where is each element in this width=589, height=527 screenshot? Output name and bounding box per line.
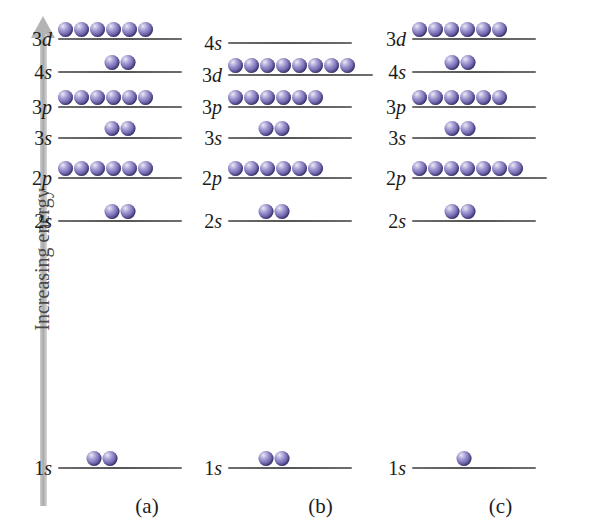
electron-sphere	[105, 55, 120, 70]
electron-group-2s	[259, 204, 290, 219]
electron-group-1s	[457, 451, 472, 466]
electron-group-2p	[412, 161, 523, 176]
orbital-line-1s	[412, 467, 536, 469]
column-caption-a: (a)	[58, 494, 236, 519]
electron-group-1s	[259, 451, 290, 466]
electron-sphere	[138, 161, 153, 176]
electron-sphere	[74, 161, 89, 176]
electron-sphere	[228, 58, 243, 73]
electron-sphere	[106, 22, 121, 37]
electron-sphere	[244, 161, 259, 176]
electron-sphere	[276, 90, 291, 105]
electron-group-1s	[87, 451, 118, 466]
electron-sphere	[492, 90, 507, 105]
electron-sphere	[492, 22, 507, 37]
electron-group-3p	[412, 90, 507, 105]
orbital-label-3s: 3s	[34, 127, 52, 150]
orbital-line-2s	[58, 220, 182, 222]
orbital-label-2p: 2p	[32, 167, 52, 190]
electron-sphere	[276, 58, 291, 73]
electron-sphere	[340, 58, 355, 73]
electron-sphere	[138, 22, 153, 37]
electron-sphere	[105, 204, 120, 219]
electron-sphere	[105, 121, 120, 136]
electron-sphere	[428, 22, 443, 37]
electron-sphere	[444, 161, 459, 176]
orbital-label-1s: 1s	[34, 457, 52, 480]
electron-sphere	[444, 90, 459, 105]
orbital-line-3d	[228, 74, 373, 76]
electron-group-3s	[259, 121, 290, 136]
orbital-line-3s	[58, 137, 182, 139]
electron-sphere	[324, 58, 339, 73]
electron-sphere	[308, 90, 323, 105]
column-caption-b: (b)	[228, 494, 413, 519]
electron-group-2p	[228, 161, 323, 176]
electron-sphere	[121, 204, 136, 219]
electron-sphere	[444, 22, 459, 37]
electron-sphere	[74, 90, 89, 105]
orbital-label-2p: 2p	[202, 167, 222, 190]
electron-sphere	[476, 161, 491, 176]
electron-sphere	[461, 55, 476, 70]
orbital-label-3d: 3d	[202, 64, 222, 87]
electron-group-3s	[105, 121, 136, 136]
electron-sphere	[244, 58, 259, 73]
orbital-line-4s	[58, 71, 182, 73]
electron-sphere	[476, 90, 491, 105]
electron-sphere	[276, 161, 291, 176]
electron-sphere	[106, 90, 121, 105]
orbital-line-4s	[412, 71, 536, 73]
orbital-label-1s: 1s	[388, 457, 406, 480]
electron-sphere	[308, 161, 323, 176]
orbital-label-3p: 3p	[386, 96, 406, 119]
electron-sphere	[445, 121, 460, 136]
electron-sphere	[228, 161, 243, 176]
orbital-line-2p	[228, 177, 352, 179]
orbital-line-3d	[58, 38, 182, 40]
orbital-label-4s: 4s	[388, 61, 406, 84]
orbital-line-3p	[58, 106, 182, 108]
orbital-line-2p	[412, 177, 547, 179]
orbital-line-3p	[412, 106, 536, 108]
electron-sphere	[259, 451, 274, 466]
orbital-line-2p	[58, 177, 182, 179]
electron-group-2s	[105, 204, 136, 219]
electron-sphere	[106, 161, 121, 176]
orbital-line-1s	[58, 467, 182, 469]
orbital-column-c: 3d4s3p3s2p2s1s (c)	[412, 0, 589, 527]
orbital-line-3s	[228, 137, 352, 139]
electron-sphere	[308, 58, 323, 73]
electron-group-4s	[445, 55, 476, 70]
electron-sphere	[445, 55, 460, 70]
orbital-column-b: 4s3d3p3s2p2s1s (b)	[228, 0, 413, 527]
electron-sphere	[58, 22, 73, 37]
orbital-label-3p: 3p	[32, 96, 52, 119]
electron-sphere	[244, 90, 259, 105]
electron-sphere	[121, 121, 136, 136]
orbital-line-2s	[412, 220, 536, 222]
electron-sphere	[292, 58, 307, 73]
electron-sphere	[508, 161, 523, 176]
electron-sphere	[460, 22, 475, 37]
electron-sphere	[260, 90, 275, 105]
orbital-label-1s: 1s	[204, 457, 222, 480]
electron-sphere	[87, 451, 102, 466]
electron-group-2s	[445, 204, 476, 219]
electron-sphere	[460, 90, 475, 105]
electron-group-3p	[228, 90, 323, 105]
electron-group-3p	[58, 90, 153, 105]
electron-sphere	[228, 90, 243, 105]
electron-sphere	[461, 121, 476, 136]
orbital-label-3p: 3p	[202, 96, 222, 119]
electron-sphere	[428, 90, 443, 105]
orbital-label-2p: 2p	[386, 167, 406, 190]
orbital-line-4s	[228, 42, 352, 44]
electron-group-3d	[228, 58, 355, 73]
orbital-label-3s: 3s	[388, 127, 406, 150]
electron-sphere	[90, 22, 105, 37]
electron-sphere	[103, 451, 118, 466]
orbital-label-4s: 4s	[34, 61, 52, 84]
orbital-line-3p	[228, 106, 352, 108]
electron-sphere	[412, 90, 427, 105]
